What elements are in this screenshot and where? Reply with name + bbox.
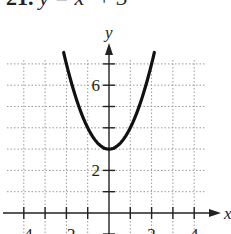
y-tick-label: 6 (92, 76, 101, 95)
x-tick-label: 4 (190, 225, 199, 234)
x-tick-label: −2 (57, 225, 75, 234)
y-axis-label: y (103, 23, 113, 42)
x-tick-label: −4 (15, 225, 34, 234)
grid (7, 60, 206, 234)
y-tick-label: 2 (92, 161, 101, 180)
parabola-graph: xy−4−22426 (0, 0, 231, 234)
tick-labels: xy−4−22426 (15, 23, 231, 234)
y-axis-arrow-icon (105, 43, 113, 55)
x-tick-label: 2 (147, 225, 156, 234)
axes (3, 43, 221, 234)
x-axis-arrow-icon (209, 209, 221, 217)
x-axis-label: x (223, 204, 231, 223)
